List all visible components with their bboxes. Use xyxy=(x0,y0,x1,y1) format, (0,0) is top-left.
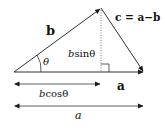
angle-arc xyxy=(37,55,41,72)
label-vector-b: b xyxy=(46,23,55,38)
label-height-sin: sinθ xyxy=(74,48,95,59)
label-angle-theta: θ xyxy=(43,56,49,67)
label-height: bsinθ xyxy=(68,48,95,59)
vector-b-line xyxy=(14,9,100,72)
label-projection-cos: cosθ xyxy=(45,88,68,99)
right-angle-marker xyxy=(101,64,109,72)
label-vector-a: a xyxy=(117,79,125,93)
label-projection: bcosθ xyxy=(39,88,68,99)
vector-triangle-diagram: b θ bsinθ c = a−b a bcosθ a xyxy=(0,0,165,128)
label-length-a: a xyxy=(75,109,82,122)
label-vector-c: c = a−b xyxy=(115,11,160,23)
